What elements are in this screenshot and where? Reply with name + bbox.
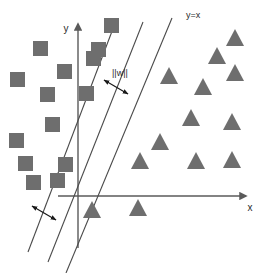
y-axis-label: y xyxy=(64,23,69,34)
triangle-marker xyxy=(226,29,244,46)
square-marker xyxy=(91,42,106,57)
square-marker xyxy=(45,117,60,132)
margin-double-arrow-bottom xyxy=(32,206,56,220)
square-marker xyxy=(57,64,72,79)
lower-margin-boundary-line xyxy=(28,26,114,252)
triangle-marker xyxy=(194,78,212,95)
triangle-marker xyxy=(131,152,149,169)
svm-diagram-canvas: y x y=x ||w|| xyxy=(0,0,275,273)
triangle-marker xyxy=(129,199,147,216)
class-b-triangle-markers xyxy=(83,29,244,218)
triangle-marker xyxy=(208,47,226,64)
triangle-marker xyxy=(160,67,178,84)
triangle-marker xyxy=(151,133,169,150)
square-marker xyxy=(40,87,55,102)
triangle-marker xyxy=(226,64,244,81)
triangle-marker xyxy=(187,152,205,169)
svm-margin-figure: y x y=x ||w|| xyxy=(0,0,275,273)
square-marker xyxy=(58,157,73,172)
triangle-marker xyxy=(223,113,241,130)
square-marker xyxy=(26,175,41,190)
triangle-marker xyxy=(83,201,101,218)
margin-annotation-top xyxy=(104,80,128,94)
square-marker xyxy=(104,18,119,33)
x-axis-label: x xyxy=(248,202,253,213)
square-marker xyxy=(18,156,33,171)
triangle-marker xyxy=(182,109,200,126)
hyperplane-label: y=x xyxy=(186,10,201,20)
square-marker xyxy=(10,72,25,87)
class-a-square-markers xyxy=(9,18,119,190)
square-marker xyxy=(9,133,24,148)
square-marker xyxy=(33,41,48,56)
triangle-marker xyxy=(223,151,241,168)
margin-norm-label: ||w|| xyxy=(112,68,128,78)
square-marker xyxy=(50,173,65,188)
margin-annotation-bottom xyxy=(32,206,56,220)
square-marker xyxy=(79,86,94,101)
margin-double-arrow-top xyxy=(104,80,128,94)
